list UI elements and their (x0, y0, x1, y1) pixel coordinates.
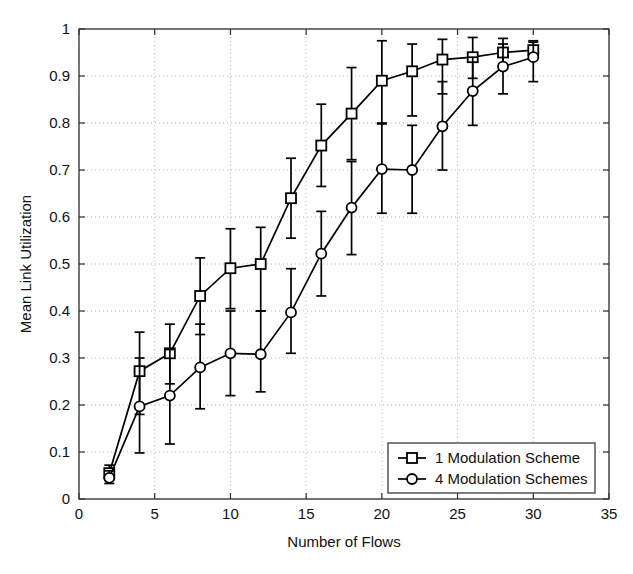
y-tick-label: 0 (62, 490, 70, 507)
y-tick-label: 0.3 (49, 349, 70, 366)
marker-square (225, 263, 235, 273)
y-tick-label: 0.4 (49, 302, 70, 319)
marker-circle (135, 401, 145, 411)
y-tick-label: 0.2 (49, 396, 70, 413)
x-tick-label: 10 (222, 505, 239, 522)
marker-square (377, 76, 387, 86)
marker-square (195, 291, 205, 301)
x-tick-label: 5 (151, 505, 159, 522)
chart-legend: 1 Modulation Scheme4 Modulation Schemes (388, 443, 595, 493)
y-tick-label: 1 (62, 20, 70, 37)
y-tick-label: 0.9 (49, 67, 70, 84)
marker-circle (256, 349, 266, 359)
x-tick-label: 35 (601, 505, 618, 522)
marker-square (256, 259, 266, 269)
marker-circle (316, 249, 326, 259)
marker-circle (165, 391, 175, 401)
x-tick-label: 25 (449, 505, 466, 522)
marker-circle (498, 62, 508, 72)
marker-circle (195, 362, 205, 372)
marker-square (407, 66, 417, 76)
legend-label: 4 Modulation Schemes (435, 470, 588, 487)
axis-titles: Number of FlowsMean Link Utilization (17, 195, 401, 550)
marker-circle (437, 121, 447, 131)
marker-circle (104, 473, 114, 483)
chart-canvas: 0510152025303500.10.20.30.40.50.60.70.80… (0, 0, 633, 574)
x-tick-label: 30 (525, 505, 542, 522)
marker-square (437, 55, 447, 65)
marker-circle (468, 86, 478, 96)
y-tick-label: 0.8 (49, 114, 70, 131)
y-tick-label: 0.6 (49, 208, 70, 225)
marker-square (316, 141, 326, 151)
y-tick-label: 0.7 (49, 161, 70, 178)
y-axis-title: Mean Link Utilization (17, 195, 34, 333)
y-tick-label: 0.5 (49, 255, 70, 272)
marker-circle (347, 203, 357, 213)
x-tick-label: 0 (75, 505, 83, 522)
marker-circle (225, 348, 235, 358)
marker-circle (286, 307, 296, 317)
data-series-layer (104, 37, 538, 483)
x-tick-label: 15 (298, 505, 315, 522)
chart-figure: 0510152025303500.10.20.30.40.50.60.70.80… (0, 0, 633, 574)
x-axis-title: Number of Flows (287, 533, 400, 550)
marker-square (407, 453, 417, 463)
marker-square (347, 109, 357, 119)
marker-circle (528, 52, 538, 62)
grid-lines (79, 29, 609, 499)
marker-circle (377, 164, 387, 174)
marker-circle (407, 165, 417, 175)
marker-square (286, 193, 296, 203)
y-tick-label: 0.1 (49, 443, 70, 460)
legend-label: 1 Modulation Scheme (435, 449, 580, 466)
marker-circle (407, 474, 417, 484)
x-tick-label: 20 (374, 505, 391, 522)
